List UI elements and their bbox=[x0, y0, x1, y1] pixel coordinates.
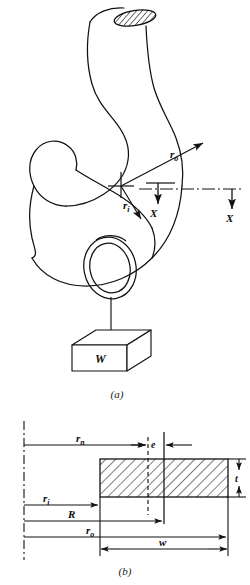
label-width: w bbox=[159, 536, 167, 548]
label-eccentricity: e bbox=[151, 439, 156, 450]
label-section-x-left: X bbox=[149, 207, 158, 219]
caption-subfigure-a: (a) bbox=[111, 388, 124, 401]
label-section-x-right: X bbox=[225, 212, 234, 224]
label-r-centroid: R bbox=[67, 508, 75, 520]
engineering-figure: ro ri X X W (a) bbox=[0, 0, 250, 585]
caption-subfigure-b: (b) bbox=[119, 565, 132, 578]
figure-container: ro ri X X W (a) bbox=[0, 0, 250, 585]
label-load-weight: W bbox=[95, 352, 107, 366]
